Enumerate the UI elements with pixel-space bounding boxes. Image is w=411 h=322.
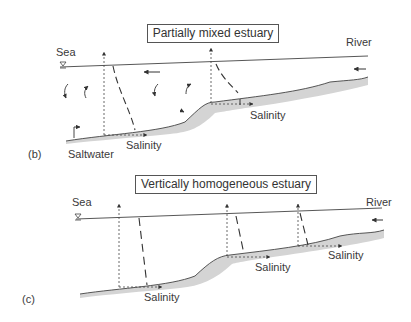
bed-shading <box>66 77 368 144</box>
salinity-profile <box>139 218 147 285</box>
circulation-arrow <box>186 84 191 94</box>
water-surface-line <box>60 56 368 67</box>
sea-label: Sea <box>56 46 76 58</box>
salinity-profile <box>113 66 135 130</box>
estuary-diagram: (b) Sea River Salinity Salinity <box>0 0 411 322</box>
panel-c-label: (c) <box>22 293 35 305</box>
panel-b-label: (b) <box>28 148 41 160</box>
circulation-arrow <box>65 84 68 98</box>
salinity-label: Salinity <box>250 109 286 121</box>
panel-c: (c) Sea River Salinity Salinity Salinity <box>22 196 392 305</box>
water-surface-line <box>76 208 382 219</box>
salinity-label: Salinity <box>328 249 364 261</box>
salinity-profile <box>300 213 308 245</box>
river-label: River <box>366 196 392 208</box>
salinity-label: Salinity <box>126 139 162 151</box>
saltwater-arrow <box>74 127 80 138</box>
river-label: River <box>346 36 372 48</box>
circulation-arrow <box>154 84 158 96</box>
salinity-profile <box>236 216 244 254</box>
panel-b: (b) Sea River Salinity Salinity <box>28 36 372 160</box>
bed-shading <box>80 230 384 298</box>
circulation-arrow <box>180 110 184 112</box>
circulation-arrow <box>85 86 88 98</box>
salinity-profile <box>216 64 238 93</box>
salinity-label: Salinity <box>144 291 180 303</box>
salinity-label: Salinity <box>255 261 291 273</box>
saltwater-label: Saltwater <box>68 148 114 160</box>
sea-label: Sea <box>72 196 92 208</box>
